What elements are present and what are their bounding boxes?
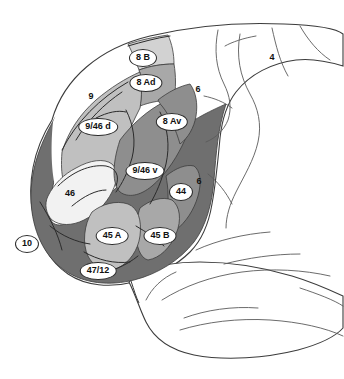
area-label-9-46d: 9/46 d [78,118,118,136]
area-label-6-dorsal: 6 [195,85,200,94]
area-label-44: 44 [169,183,193,201]
brain-area-diagram: 10 47/12 46 45 A 45 B 44 9/46 d 9/46 v 9… [0,0,344,379]
area-label-45b: 45 B [143,227,176,245]
sylvian-upper [196,232,270,250]
area-label-9-46v: 9/46 v [125,162,164,180]
area-label-10: 10 [15,235,39,253]
sylvian-lower [224,254,300,264]
area-label-47-12: 47/12 [80,262,117,280]
area-label-8b: 8 B [129,49,157,67]
area-label-45a: 45 A [96,227,129,245]
area-label-4: 4 [269,53,274,62]
area-label-9: 9 [88,92,93,101]
temporal-lobe-outline [129,262,343,358]
area-label-8ad: 8 Ad [129,74,162,92]
area-label-6-ventral: 6 [196,177,201,186]
area-label-46: 46 [65,189,75,198]
